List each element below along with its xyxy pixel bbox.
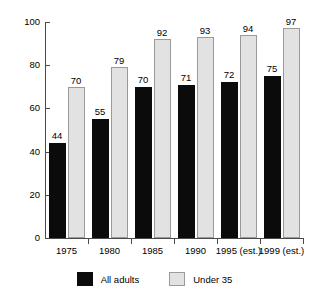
- bar-value-label: 94: [243, 23, 254, 34]
- x-tick-label: 1990: [185, 245, 206, 257]
- bar-value-label: 97: [286, 16, 297, 27]
- bar: 44: [49, 143, 66, 238]
- bar: 97: [283, 28, 300, 238]
- legend-swatch: [169, 272, 185, 286]
- bar-value-label: 55: [95, 106, 106, 117]
- bar-value-label: 71: [181, 72, 192, 83]
- bar-value-label: 75: [267, 63, 278, 74]
- legend-label: Under 35: [193, 274, 232, 285]
- bar-value-label: 72: [224, 69, 235, 80]
- bar: 71: [178, 85, 195, 238]
- x-tick-label: 1995 (est.): [216, 245, 261, 257]
- legend-swatch: [77, 272, 93, 286]
- chart-legend: All adultsUnder 35: [0, 272, 309, 286]
- x-tick-mark: [174, 239, 175, 244]
- legend-item: All adults: [77, 272, 140, 286]
- bar: 70: [68, 87, 85, 238]
- x-tick-label: 1980: [99, 245, 120, 257]
- x-tick-label: 1975: [56, 245, 77, 257]
- x-tick-mark: [260, 239, 261, 244]
- plot-area: 447055797092719372947597: [45, 22, 303, 238]
- bar: 72: [221, 82, 238, 238]
- bar: 93: [197, 37, 214, 238]
- y-tick-label: 80: [29, 59, 40, 70]
- y-tick-label: 100: [24, 16, 40, 27]
- y-tick: 0: [45, 238, 50, 239]
- chart-title-remnant: [34, 0, 274, 3]
- bar-value-label: 92: [157, 27, 168, 38]
- bar-value-label: 70: [138, 74, 149, 85]
- x-tick-mark: [217, 239, 218, 244]
- x-tick-mark: [303, 239, 304, 244]
- bar-value-label: 79: [114, 55, 125, 66]
- x-tick-label: 1985: [142, 245, 163, 257]
- legend-label: All adults: [101, 274, 140, 285]
- y-tick-label: 60: [29, 102, 40, 113]
- bar: 75: [264, 76, 281, 238]
- y-tick-mark: [45, 238, 50, 239]
- bar: 70: [135, 87, 152, 238]
- x-tick-mark: [131, 239, 132, 244]
- bar: 79: [111, 67, 128, 238]
- legend-item: Under 35: [169, 272, 232, 286]
- bar-value-label: 44: [52, 130, 63, 141]
- bar: 55: [92, 119, 109, 238]
- bar-value-label: 70: [71, 75, 82, 86]
- bar: 94: [240, 35, 257, 238]
- y-tick-label: 20: [29, 189, 40, 200]
- bar-chart: 020406080100 447055797092719372947597 19…: [0, 0, 309, 297]
- x-tick-label: 1999 (est.): [259, 245, 304, 257]
- x-tick-mark: [88, 239, 89, 244]
- y-tick-label: 40: [29, 146, 40, 157]
- bar-value-label: 93: [200, 25, 211, 36]
- bar: 92: [154, 39, 171, 238]
- y-tick-label: 0: [35, 232, 40, 243]
